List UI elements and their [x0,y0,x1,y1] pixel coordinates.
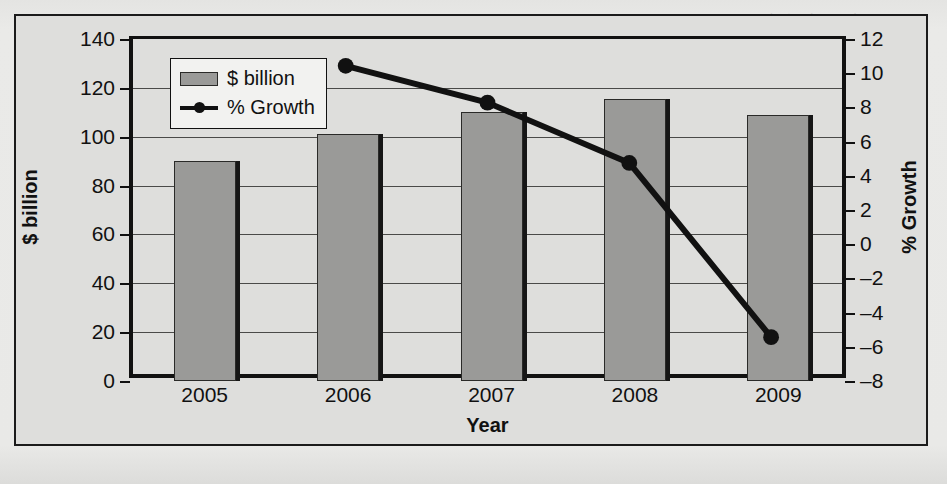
y-axis-right-tick [845,142,855,144]
y-axis-right-tick-label: 0 [860,232,872,256]
y-axis-left-tick [120,283,130,285]
y-axis-right-tick-label: 4 [860,164,872,188]
line-marker-swatch-icon [180,101,218,115]
y-axis-right-tick [845,278,855,280]
y-axis-left-tick-label: 100 [80,125,115,149]
y-axis-right-tick-label: 2 [860,198,872,222]
y-axis-right-tick-label: –6 [860,335,883,359]
line-marker [338,58,354,74]
y-axis-right-tick [845,73,855,75]
y-axis-right-tick-label: 10 [860,61,883,85]
y-axis-left-tick-label: 0 [103,369,115,393]
bar-swatch-icon [180,72,218,86]
y-axis-left-tick-label: 20 [92,320,115,344]
y-axis-left-tick-label: 120 [80,76,115,100]
legend-item-line: % Growth [180,93,315,122]
y-axis-left-tick-label: 60 [92,222,115,246]
y-axis-left-tick [120,332,130,334]
chart-figure: $ billion % Growth Year 0204060801001201… [14,14,928,446]
y-axis-left-tick-label: 140 [80,27,115,51]
y-axis-right-tick-label: –8 [860,369,883,393]
x-axis-title: Year [129,414,846,437]
y-axis-right-tick [845,176,855,178]
y-axis-right-tick-label: 12 [860,27,883,51]
y-axis-right-tick-label: –4 [860,301,883,325]
x-axis-tick-label: 2008 [612,383,659,407]
legend-label-line: % Growth [227,96,315,119]
y-axis-right-tick [845,381,855,383]
y-axis-left-tick [120,39,130,41]
plot-area: 020406080100120140 –8–6–4–2024681012 200… [129,36,846,378]
bar [317,134,379,381]
y-axis-left-tick [120,186,130,188]
chart-legend: $ billion % Growth [170,58,327,129]
y-axis-left-title: $ billion [19,169,42,245]
y-axis-right-tick [845,313,855,315]
y-axis-left-tick-label: 40 [92,271,115,295]
line-marker [480,95,496,111]
y-axis-right-title: % Growth [898,160,921,253]
y-axis-left-tick [120,137,130,139]
y-axis-left-tick [120,88,130,90]
legend-item-bar: $ billion [180,64,315,93]
x-axis-tick-label: 2006 [325,383,372,407]
x-axis-tick-label: 2007 [468,383,515,407]
bar [747,115,809,381]
y-axis-right-tick-label: 8 [860,95,872,119]
x-axis-tick-label: 2005 [181,383,228,407]
y-axis-right-tick [845,39,855,41]
y-axis-right-tick [845,244,855,246]
y-axis-left-tick [120,381,130,383]
y-axis-left-tick [120,234,130,236]
y-axis-right-tick-label: 6 [860,130,872,154]
bar [174,161,236,381]
y-axis-right-tick [845,210,855,212]
y-axis-right-tick [845,107,855,109]
legend-label-bar: $ billion [227,67,295,90]
bar [604,99,666,381]
y-axis-left-tick-label: 80 [92,174,115,198]
y-axis-right-tick-label: –2 [860,266,883,290]
bar [461,112,523,381]
line-path [346,66,771,337]
x-axis-tick-label: 2009 [755,383,802,407]
y-axis-right-tick [845,347,855,349]
